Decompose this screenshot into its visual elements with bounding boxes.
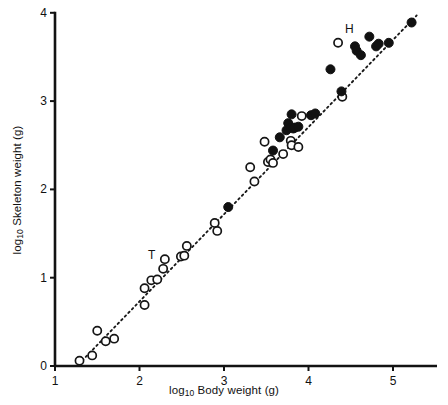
- data-point-open: [153, 275, 161, 283]
- axes: [54, 12, 437, 366]
- data-point-open: [75, 357, 83, 365]
- y-axis-title: log10 Skeleton weight (g): [11, 126, 23, 255]
- y-axis-title-rest: Skeleton weight (g): [11, 126, 23, 230]
- data-point-filled: [275, 133, 284, 142]
- data-point-open: [140, 284, 148, 292]
- data-point-open: [140, 301, 148, 309]
- x-tick-label: 4: [305, 375, 312, 387]
- data-point-open: [88, 351, 96, 359]
- data-point-open: [93, 327, 101, 335]
- point-label-h: H: [345, 23, 354, 35]
- data-point-filled: [356, 51, 365, 60]
- regression-line: [79, 15, 417, 364]
- y-tick-label: 3: [33, 95, 47, 107]
- data-point-open: [159, 265, 167, 273]
- data-point-open: [102, 337, 110, 345]
- data-point-open: [250, 177, 258, 185]
- data-point-open: [269, 159, 277, 167]
- x-tick-label: 2: [136, 375, 143, 387]
- regression-line-path: [79, 15, 417, 364]
- data-point-filled: [224, 203, 233, 212]
- y-tick-label: 4: [33, 7, 47, 19]
- data-point-open: [298, 112, 306, 120]
- data-point-open: [334, 39, 342, 47]
- scatter-plot-figure: 12345 01234 TH log10 Body weight (g) log…: [0, 0, 448, 405]
- data-point-open: [211, 219, 219, 227]
- data-point-open: [183, 242, 191, 250]
- data-point-open: [279, 150, 287, 158]
- y-axis-title-prefix: log: [11, 239, 23, 255]
- y-tick-label: 0: [33, 360, 47, 372]
- data-point-filled: [374, 39, 383, 48]
- data-point-filled: [294, 122, 303, 131]
- y-axis-title-subscript: 10: [15, 229, 25, 239]
- data-point-open: [110, 335, 118, 343]
- data-point-open: [161, 255, 169, 263]
- data-point-filled: [326, 65, 335, 74]
- data-point-filled: [269, 146, 278, 155]
- axis-ticks: [50, 13, 393, 371]
- plot-canvas: [0, 0, 448, 405]
- x-axis-title-prefix: log: [169, 384, 185, 396]
- x-tick-label: 5: [390, 375, 397, 387]
- data-point-filled: [287, 110, 296, 119]
- data-point-open: [213, 227, 221, 235]
- data-point-filled: [384, 38, 393, 47]
- data-point-open: [246, 163, 254, 171]
- x-axis-title: log10 Body weight (g): [169, 384, 279, 396]
- open-circle-points: [75, 39, 346, 365]
- y-tick-label: 1: [33, 272, 47, 284]
- data-point-open: [294, 143, 302, 151]
- y-tick-label: 2: [33, 183, 47, 195]
- data-point-filled: [365, 32, 374, 41]
- x-tick-label: 1: [52, 375, 59, 387]
- data-point-open: [180, 252, 188, 260]
- data-point-filled: [337, 87, 346, 96]
- x-axis-title-rest: Body weight (g): [194, 384, 279, 396]
- point-label-t: T: [148, 249, 155, 261]
- data-point-open: [260, 138, 268, 146]
- data-point-filled: [407, 18, 416, 27]
- data-point-filled: [311, 109, 320, 118]
- x-axis-title-subscript: 10: [185, 388, 195, 398]
